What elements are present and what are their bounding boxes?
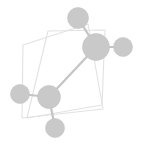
graph-node <box>83 34 110 61</box>
graph-canvas <box>0 0 142 144</box>
graph-node <box>46 119 65 138</box>
graph-node <box>114 38 133 57</box>
graph-node <box>38 86 61 109</box>
graph-node <box>11 85 30 104</box>
edge-layer <box>20 18 123 128</box>
graph-node <box>68 8 89 29</box>
network-graph-figure <box>0 0 142 144</box>
